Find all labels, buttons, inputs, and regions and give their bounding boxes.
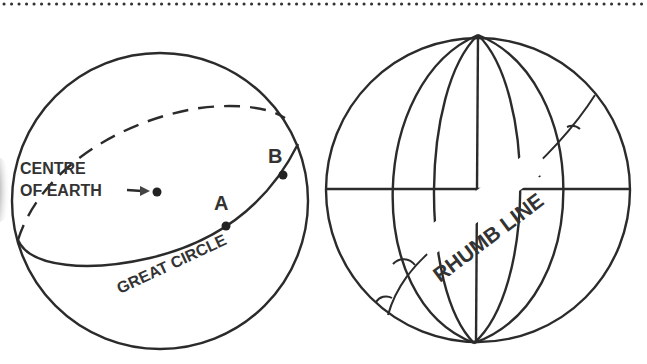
navigation-diagram: CENTRE OF EARTH A B GREAT CIRCLE RHUMB L… (0, 0, 647, 364)
meridian (476, 35, 478, 343)
point-a-label: A (214, 192, 228, 214)
centre-point (153, 188, 162, 197)
arrow-shaft (127, 190, 142, 191)
angle-arc (376, 296, 392, 302)
edge-shadow (0, 158, 10, 222)
globe-outline (12, 53, 308, 349)
great-circle-globe (12, 53, 308, 349)
centre-label-line2: OF EARTH (20, 182, 102, 199)
point-b-label: B (268, 145, 282, 167)
diagram-canvas: CENTRE OF EARTH A B GREAT CIRCLE RHUMB L… (0, 0, 647, 364)
centre-label-line1: CENTRE (20, 160, 86, 177)
rhumb-line-globe (326, 35, 630, 343)
arrow-head-icon (140, 186, 150, 196)
point-b-marker (279, 171, 288, 180)
great-circle-label: GREAT CIRCLE (114, 231, 229, 297)
point-a-marker (222, 222, 231, 231)
angle-arc (567, 126, 580, 129)
